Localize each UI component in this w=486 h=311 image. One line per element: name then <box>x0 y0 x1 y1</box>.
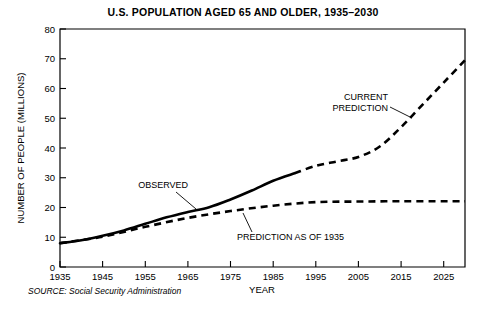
chart-figure: U.S. POPULATION AGED 65 AND OLDER, 1935–… <box>0 0 486 311</box>
source-note: SOURCE: Social Security Administration <box>28 286 181 296</box>
population-line-chart: 0 10 20 30 40 50 60 70 80 NUMBER OF PEOP… <box>0 0 486 311</box>
x-axis-title: YEAR <box>249 284 275 295</box>
y-tick-label: 50 <box>44 113 55 124</box>
annotation-prediction-1935: PREDICTION AS OF 1935 <box>237 213 344 242</box>
annotation-observed-label: OBSERVED <box>138 180 188 190</box>
x-tick-label: 2005 <box>348 271 369 282</box>
y-tick-label: 60 <box>44 83 55 94</box>
annotation-prediction-1935-label: PREDICTION AS OF 1935 <box>237 232 344 242</box>
x-tick-label: 1955 <box>135 271 156 282</box>
x-tick-label: 1985 <box>263 271 284 282</box>
x-tick-label: 1995 <box>305 271 326 282</box>
y-tick-labels: 0 10 20 30 40 50 60 70 80 <box>44 24 55 273</box>
y-tick-label: 80 <box>44 24 55 35</box>
x-tick-label: 2025 <box>433 271 454 282</box>
annotation-current-prediction: CURRENT PREDICTION <box>332 92 412 118</box>
y-tick-label: 40 <box>44 143 55 154</box>
x-tick-label: 1975 <box>220 271 241 282</box>
y-axis-ticks <box>60 29 66 267</box>
annotation-current-prediction-line1: CURRENT <box>344 92 389 102</box>
y-axis-title: NUMBER OF PEOPLE (MILLIONS) <box>15 73 26 224</box>
y-tick-label: 30 <box>44 172 55 183</box>
series-current-prediction <box>294 60 465 173</box>
x-tick-labels: 1935 1945 1955 1965 1975 1985 1995 2005 … <box>49 271 454 282</box>
y-tick-label: 20 <box>44 202 55 213</box>
x-tick-label: 1945 <box>92 271 113 282</box>
x-axis-ticks <box>60 261 444 267</box>
x-tick-label: 2015 <box>391 271 412 282</box>
x-tick-label: 1965 <box>177 271 198 282</box>
y-tick-label: 70 <box>44 53 55 64</box>
y-tick-label: 10 <box>44 232 55 243</box>
x-tick-label: 1935 <box>49 271 70 282</box>
annotation-current-prediction-line2: PREDICTION <box>332 103 388 113</box>
annotation-observed: OBSERVED <box>138 180 196 209</box>
